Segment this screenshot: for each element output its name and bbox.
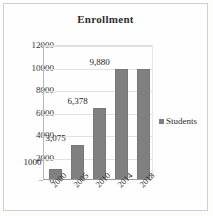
bar-fill xyxy=(93,108,106,180)
bar-value-label: 9,880 xyxy=(90,58,110,67)
gridline xyxy=(44,46,152,47)
y-axis-tick xyxy=(39,180,43,181)
chart-frame: Enrollment 020004000600080001000012000 2… xyxy=(3,3,208,211)
bar-value-label: 1000 xyxy=(24,158,42,167)
legend-label-students: Students xyxy=(166,117,197,126)
chart-title: Enrollment xyxy=(4,13,207,25)
bar-value-label: 6,378 xyxy=(68,97,88,106)
bar[interactable] xyxy=(93,108,106,180)
legend-swatch-students-icon xyxy=(159,119,164,124)
bar[interactable] xyxy=(137,69,150,180)
bar-fill xyxy=(137,69,150,180)
bar-value-label: 3,075 xyxy=(46,134,66,143)
chart-legend: Students xyxy=(159,117,197,126)
bar[interactable] xyxy=(115,69,128,180)
bar-fill xyxy=(115,69,128,180)
